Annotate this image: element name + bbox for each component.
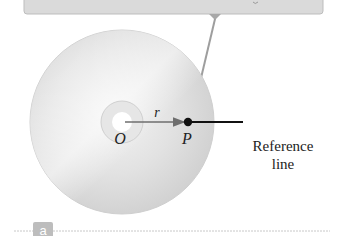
- callout-box: [24, 0, 323, 20]
- point-p-dot: [184, 118, 192, 126]
- panel-badge: a: [33, 222, 53, 236]
- radius-label: r: [154, 105, 160, 120]
- disc-diagram: r O P Reference line a: [0, 0, 341, 236]
- reference-label-line1: Reference: [253, 138, 314, 154]
- panel-label: a: [39, 223, 47, 236]
- center-label: O: [114, 130, 126, 147]
- reference-label-line2: line: [272, 156, 295, 172]
- point-label: P: [181, 130, 192, 147]
